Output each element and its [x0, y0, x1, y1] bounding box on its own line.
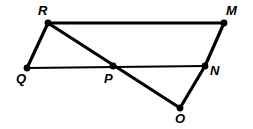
vertex-dot-n: [202, 63, 209, 70]
vertex-dot-m: [221, 20, 228, 27]
vertex-dot-p: [110, 63, 117, 70]
vertex-label-r: R: [38, 4, 47, 17]
segments-layer: [27, 23, 224, 108]
vertex-label-n: N: [210, 64, 219, 77]
geometry-figure: RMQPNO: [0, 0, 253, 129]
vertex-dot-r: [45, 20, 52, 27]
vertex-label-q: Q: [16, 72, 26, 85]
vertex-label-p: P: [104, 72, 112, 85]
segment-NO: [180, 66, 205, 108]
vertex-label-o: O: [175, 112, 185, 125]
vertex-label-m: M: [226, 4, 237, 17]
segment-MN: [205, 23, 224, 66]
segment-RQ: [27, 23, 48, 68]
